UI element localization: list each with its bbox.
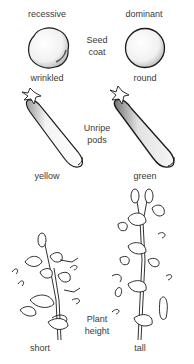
wrinkled-seed-icon — [29, 28, 69, 68]
trait-name-line1: Seed — [86, 34, 107, 46]
trait-name-seed-coat: Seed coat — [86, 34, 107, 58]
trait-name-line1: Unripe — [84, 122, 111, 134]
recessive-seed-label: wrinkled — [30, 73, 63, 84]
trait-name-line2: coat — [86, 46, 107, 58]
recessive-pod-label: yellow — [34, 171, 59, 182]
trait-name-line1: Plant — [85, 313, 110, 325]
short-plant-icon — [12, 233, 80, 340]
dominant-pod-label: green — [133, 171, 156, 182]
round-seed-icon — [126, 29, 165, 68]
yellow-pod-icon — [22, 88, 83, 167]
trait-name-line2: height — [85, 325, 110, 337]
trait-name-line2: pods — [84, 134, 111, 146]
tall-plant-icon — [112, 189, 172, 340]
green-pod-icon — [110, 86, 174, 167]
dominant-height-label: tall — [134, 343, 146, 354]
trait-name-unripe-pods: Unripe pods — [84, 122, 111, 146]
trait-name-plant-height: Plant height — [85, 313, 110, 337]
recessive-height-label: short — [30, 343, 50, 354]
dominant-seed-label: round — [133, 73, 156, 84]
